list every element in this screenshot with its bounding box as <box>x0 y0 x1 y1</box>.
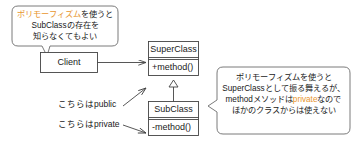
left-callout-line-3: 知らなくてもよい <box>12 31 118 42</box>
annotation-public-label: こちらはpublic <box>58 99 116 110</box>
right-callout-line-4: ほかのクラスからは使えない <box>219 105 348 116</box>
inheritance-subclass-to-superclass <box>169 80 178 102</box>
right-callout-line-2: SuperClassとして振る舞えるが、 <box>219 83 348 94</box>
right-callout-text: ポリモーフィズムを使うと SuperClassとして振る舞えるが、 method… <box>219 72 348 116</box>
left-callout-line-2: SubClassの存在を <box>12 20 118 31</box>
subclass-method-member: -method() <box>152 122 191 133</box>
right-callout-accent-term: private <box>293 95 318 104</box>
leader-line-public <box>123 88 146 106</box>
right-callout-line-1: ポリモーフィズムを使うと <box>219 72 348 83</box>
client-class-name: Client <box>40 57 98 68</box>
right-callout-line-3: methodメソッドはprivateなので <box>219 94 348 105</box>
annotation-private-label: こちらはprivate <box>58 119 120 130</box>
leader-line-private <box>123 125 146 133</box>
right-callout-line-3-post: なので <box>317 95 341 104</box>
left-callout-line-1-rest: を使うと <box>81 10 113 19</box>
left-callout-accent-term: ポリモーフィズム <box>17 10 81 19</box>
left-callout-line-1: ポリモーフィズムを使うと <box>12 9 118 20</box>
subclass-class-name: SubClass <box>148 104 199 115</box>
superclass-method-member: +method() <box>152 62 193 73</box>
uml-diagram-canvas: ポリモーフィズムを使うと SubClassの存在を 知らなくてもよい Clien… <box>0 0 356 153</box>
right-callout-line-3-pre: methodメソッドは <box>226 95 293 104</box>
superclass-class-name: SuperClass <box>148 44 199 55</box>
left-callout-text: ポリモーフィズムを使うと SubClassの存在を 知らなくてもよい <box>12 9 118 42</box>
